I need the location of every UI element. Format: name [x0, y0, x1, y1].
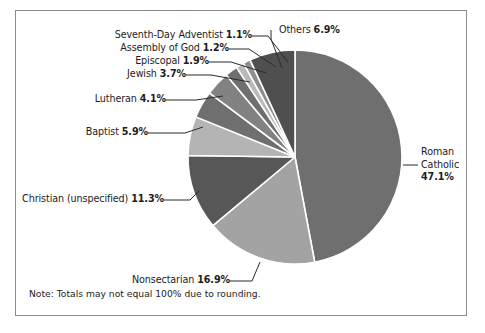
- pie-label-pct-episcopal: 1.9%: [183, 55, 209, 66]
- pie-label-name-nonsectarian: Nonsectarian: [132, 274, 197, 285]
- pie-label-pct-seventh-day-adventist: 1.1%: [226, 29, 252, 40]
- pie-label-lutheran: Lutheran 4.1%: [0, 93, 166, 106]
- pie-label-pct-nonsectarian: 16.9%: [197, 274, 230, 285]
- pie-label-jewish: Jewish 3.7%: [0, 68, 186, 81]
- pie-slice: [295, 50, 402, 262]
- pie-label-name-jewish: Jewish: [127, 68, 160, 79]
- pie-label-name-assembly-of-god: Assembly of God: [120, 42, 202, 53]
- pie-label-baptist: Baptist 5.9%: [0, 126, 148, 139]
- pie-label-name-lutheran: Lutheran: [95, 93, 140, 104]
- pie-label-pct-baptist: 5.9%: [122, 126, 148, 137]
- pie-label-name-episcopal: Episcopal: [135, 55, 183, 66]
- pie-label-nonsectarian: Nonsectarian 16.9%: [0, 274, 230, 287]
- pie-label-roman-catholic: Roman Catholic 47.1%: [421, 146, 459, 184]
- pie-label-seventh-day-adventist: Seventh-Day Adventist 1.1%: [0, 29, 252, 42]
- pie-label-assembly-of-god: Assembly of God 1.2%: [0, 42, 229, 55]
- pie-slice-group: [188, 50, 402, 264]
- pie-label-pct-assembly-of-god: 1.2%: [203, 42, 229, 53]
- leader-line-nonsectarian: [230, 262, 260, 281]
- pie-label-pct-christian-unspecified: 11.3%: [131, 193, 164, 204]
- pie-label-episcopal: Episcopal 1.9%: [0, 55, 209, 68]
- pie-label-pct-jewish: 3.7%: [160, 68, 186, 79]
- pie-label-pct-lutheran: 4.1%: [140, 93, 166, 104]
- pie-label-others: Others 6.9%: [279, 24, 340, 37]
- pie-label-pct-roman-catholic: 47.1%: [421, 171, 459, 184]
- pie-label-name-others: Others: [279, 24, 314, 35]
- pie-label-name-christian-unspecified: Christian (unspecified): [22, 193, 131, 204]
- pie-label-pct-others: 6.9%: [314, 24, 340, 35]
- figure-note: Note: Totals may not equal 100% due to r…: [29, 288, 261, 299]
- pie-chart-figure: Seventh-Day Adventist 1.1% Assembly of G…: [0, 0, 485, 333]
- pie-label-name-roman-catholic-line2: Catholic: [421, 159, 459, 172]
- pie-label-name-baptist: Baptist: [86, 126, 122, 137]
- pie-label-name-roman-catholic-line1: Roman: [421, 146, 459, 159]
- pie-label-christian-unspecified: Christian (unspecified) 11.3%: [0, 193, 164, 206]
- pie-label-name-seventh-day-adventist: Seventh-Day Adventist: [115, 29, 226, 40]
